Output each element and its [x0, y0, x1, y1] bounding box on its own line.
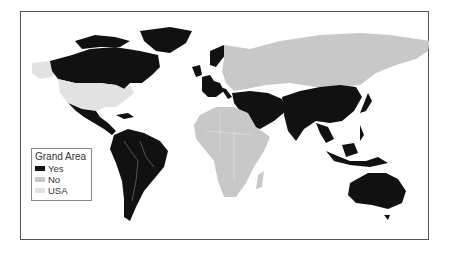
region-western-europe: [202, 75, 224, 97]
legend-label: Yes: [48, 163, 64, 174]
region-indonesia: [326, 151, 388, 167]
legend-label: USA: [48, 185, 68, 196]
region-italy: [220, 87, 232, 99]
region-arctic-islands: [75, 35, 130, 49]
legend-swatch-yes: [35, 166, 45, 171]
region-tasmania: [384, 215, 390, 220]
region-caribbean: [116, 113, 134, 119]
region-madagascar: [256, 171, 264, 189]
region-japan: [360, 93, 372, 113]
region-borneo: [342, 143, 358, 157]
legend-item-no: No: [35, 174, 88, 185]
region-greenland: [140, 27, 192, 53]
legend-item-usa: USA: [35, 185, 88, 196]
region-philippines: [360, 125, 364, 141]
region-southeast-asia: [316, 123, 334, 143]
region-uk: [192, 65, 202, 77]
legend-swatch-no: [35, 177, 45, 182]
legend-label: No: [48, 174, 60, 185]
region-russia: [222, 33, 429, 91]
legend-title: Grand Area: [35, 151, 88, 163]
legend-swatch-usa: [35, 188, 45, 193]
world-map: [20, 11, 429, 240]
legend-item-yes: Yes: [35, 163, 88, 174]
region-australia: [348, 173, 406, 209]
map-legend: Grand Area Yes No USA: [31, 148, 92, 201]
region-south-america: [110, 129, 168, 221]
